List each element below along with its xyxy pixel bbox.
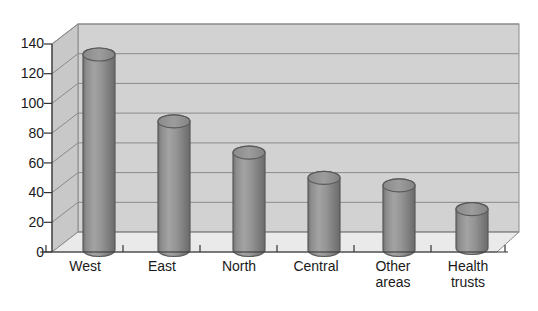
- x-label-health-trusts-line-2: trusts: [434, 274, 502, 290]
- bar-east: [158, 115, 190, 257]
- bar-north: [233, 146, 265, 256]
- y-axis: [44, 44, 52, 252]
- y-tick-100: 100: [8, 96, 44, 110]
- bar-chart: 140 120 100 80 60 40 20 0 West East Nort…: [0, 0, 538, 311]
- bar-health-trusts: [456, 203, 488, 255]
- plot-side-wall: [52, 24, 78, 252]
- x-label-west-line-1: West: [54, 258, 116, 274]
- x-axis-labels: West East North Central Other areas Heal…: [0, 258, 538, 311]
- y-tick-80: 80: [8, 126, 44, 140]
- x-label-east-line-1: East: [131, 258, 193, 274]
- bar-central: [308, 171, 340, 256]
- bar-other-areas: [383, 179, 415, 257]
- x-label-health-trusts-line-1: Health: [434, 258, 502, 274]
- x-label-central-line-1: Central: [284, 258, 348, 274]
- x-label-central: Central: [284, 258, 348, 274]
- x-label-health-trusts: Health trusts: [434, 258, 502, 290]
- x-label-west: West: [54, 258, 116, 274]
- x-label-other-areas: Other areas: [362, 258, 424, 290]
- y-tick-60: 60: [8, 156, 44, 170]
- y-tick-20: 20: [8, 215, 44, 229]
- bar-west: [83, 48, 115, 257]
- x-label-other-areas-line-1: Other: [362, 258, 424, 274]
- x-label-east: East: [131, 258, 193, 274]
- x-label-north-line-1: North: [208, 258, 270, 274]
- y-tick-140: 140: [8, 36, 44, 50]
- y-tick-120: 120: [8, 66, 44, 80]
- plot-floor: [52, 232, 519, 252]
- x-label-north: North: [208, 258, 270, 274]
- plot-back-wall: [78, 24, 519, 232]
- y-tick-40: 40: [8, 185, 44, 199]
- x-label-other-areas-line-2: areas: [362, 274, 424, 290]
- y-tick-0: 0: [8, 245, 44, 259]
